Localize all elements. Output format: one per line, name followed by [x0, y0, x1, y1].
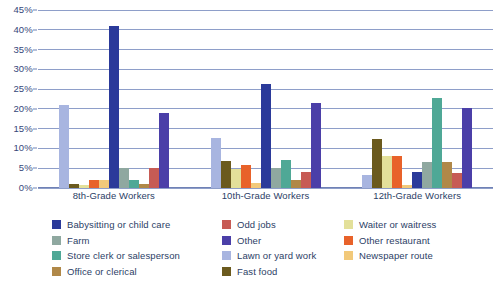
- legend-swatch: [52, 236, 61, 245]
- legend-item[interactable]: Waiter or waitress: [344, 219, 484, 230]
- bar-group: [341, 10, 493, 188]
- y-axis-tick-label: 30%: [13, 64, 33, 75]
- legend-item-label: Lawn or yard work: [237, 250, 316, 261]
- y-axis-tick-label: 45%: [13, 4, 33, 15]
- y-axis-tick-mark: [33, 148, 37, 149]
- bar: [261, 84, 271, 188]
- legend-swatch: [222, 251, 231, 260]
- bar: [69, 184, 79, 188]
- bar: [442, 162, 452, 188]
- bar: [362, 175, 372, 188]
- y-axis-tick-mark: [33, 69, 37, 70]
- y-axis-tick-mark: [33, 49, 37, 50]
- legend-swatch: [52, 220, 61, 229]
- bar: [402, 185, 412, 188]
- y-axis-tick-mark: [33, 108, 37, 109]
- bar: [251, 183, 261, 188]
- y-axis-tick-mark: [33, 168, 37, 169]
- y-axis-tick-mark: [33, 89, 37, 90]
- legend-item-label: Other restaurant: [359, 235, 430, 246]
- y-axis-tick-label: 40%: [13, 24, 33, 35]
- legend-item-label: Store clerk or salesperson: [67, 250, 180, 261]
- plot-area: 0%5%10%15%20%25%30%35%40%45%: [38, 10, 493, 188]
- bar: [271, 168, 281, 188]
- bar: [211, 138, 221, 188]
- x-axis-labels: 8th-Grade Workers10th-Grade Workers12th-…: [38, 190, 493, 201]
- bar: [79, 185, 89, 188]
- bar: [311, 103, 321, 188]
- y-axis-tick-label: 10%: [13, 143, 33, 154]
- bar: [159, 113, 169, 188]
- legend-item[interactable]: Farm: [52, 235, 222, 246]
- legend-item[interactable]: Fast food: [222, 266, 344, 277]
- y-axis-tick-label: 35%: [13, 44, 33, 55]
- legend-swatch: [344, 220, 353, 229]
- grouped-bar-chart: 0%5%10%15%20%25%30%35%40%45% 8th-Grade W…: [0, 0, 499, 298]
- bar: [382, 156, 392, 188]
- bar: [392, 156, 402, 188]
- bar: [231, 169, 241, 188]
- x-axis-label: 12th-Grade Workers: [341, 190, 493, 201]
- legend-item-label: Office or clerical: [67, 266, 137, 277]
- y-axis-tick-label: 0%: [19, 182, 33, 193]
- legend-item-label: Fast food: [237, 266, 278, 277]
- legend-swatch: [222, 220, 231, 229]
- bar: [281, 160, 291, 188]
- legend-item-label: Other: [237, 235, 261, 246]
- legend-column: Waiter or waitressOther restaurantNewspa…: [344, 219, 484, 277]
- bar: [89, 180, 99, 188]
- x-axis-label: 8th-Grade Workers: [38, 190, 190, 201]
- bar: [372, 139, 382, 188]
- y-axis-tick-mark: [33, 29, 37, 30]
- chart-legend: Babysitting or child careFarmStore clerk…: [52, 219, 492, 277]
- bar: [412, 172, 422, 188]
- x-axis-label: 10th-Grade Workers: [190, 190, 342, 201]
- legend-item-label: Babysitting or child care: [67, 219, 170, 230]
- legend-item[interactable]: Other: [222, 235, 344, 246]
- y-axis-tick-label: 15%: [13, 123, 33, 134]
- bar: [301, 172, 311, 188]
- bar: [129, 180, 139, 188]
- bar: [432, 98, 442, 188]
- legend-item[interactable]: Odd jobs: [222, 219, 344, 230]
- y-axis-tick-label: 5%: [19, 162, 33, 173]
- legend-item[interactable]: Store clerk or salesperson: [52, 250, 222, 261]
- legend-item[interactable]: Babysitting or child care: [52, 219, 222, 230]
- bar: [119, 168, 129, 188]
- y-axis-tick-label: 20%: [13, 103, 33, 114]
- legend-item-label: Newspaper route: [359, 250, 433, 261]
- legend-swatch: [52, 267, 61, 276]
- legend-swatch: [222, 267, 231, 276]
- legend-swatch: [344, 251, 353, 260]
- legend-swatch: [344, 236, 353, 245]
- bar: [99, 180, 109, 188]
- legend-item[interactable]: Lawn or yard work: [222, 250, 344, 261]
- bar: [241, 165, 251, 188]
- y-axis-tick-mark: [33, 188, 37, 189]
- legend-column: Babysitting or child careFarmStore clerk…: [52, 219, 222, 277]
- legend-column: Odd jobsOtherLawn or yard workFast food: [222, 219, 344, 277]
- bar: [291, 180, 301, 188]
- legend-item-label: Farm: [67, 235, 90, 246]
- bar: [139, 184, 149, 188]
- legend-swatch: [52, 251, 61, 260]
- bar: [221, 161, 231, 188]
- legend-item-label: Odd jobs: [237, 219, 276, 230]
- bar: [462, 108, 472, 188]
- bar: [452, 173, 462, 188]
- legend-item[interactable]: Newspaper route: [344, 250, 484, 261]
- bar-group: [38, 10, 190, 188]
- bar-groups: [38, 10, 493, 188]
- legend-item[interactable]: Other restaurant: [344, 235, 484, 246]
- y-axis-tick-mark: [33, 10, 37, 11]
- bar: [149, 168, 159, 188]
- bar-group: [190, 10, 342, 188]
- bar: [422, 162, 432, 188]
- y-axis-tick-label: 25%: [13, 83, 33, 94]
- y-axis-tick-mark: [33, 128, 37, 129]
- bar: [59, 105, 69, 188]
- legend-item[interactable]: Office or clerical: [52, 266, 222, 277]
- legend-swatch: [222, 236, 231, 245]
- legend-item-label: Waiter or waitress: [359, 219, 436, 230]
- bar: [109, 26, 119, 188]
